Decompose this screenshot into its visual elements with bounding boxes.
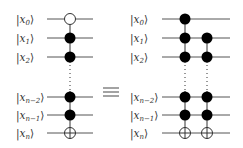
qubit-label: |xn⟩ [16, 127, 34, 141]
right-circuit: |x0⟩|x1⟩|x2⟩|xn−2⟩|xn−1⟩|xn⟩ [130, 13, 230, 141]
filled-control-icon [180, 92, 191, 103]
filled-control-icon [180, 110, 191, 121]
qubit-label: |xn−2⟩ [130, 91, 158, 105]
filled-control-icon [180, 14, 191, 25]
qubit-label: |xn−2⟩ [16, 91, 44, 105]
filled-control-icon [202, 33, 213, 44]
left-circuit: |x0⟩|x1⟩|x2⟩|xn−2⟩|xn−1⟩|xn⟩ [16, 13, 93, 141]
equivalence-symbol [103, 88, 119, 96]
qubit-label: |x1⟩ [16, 32, 34, 46]
qubit-label: |x0⟩ [130, 13, 148, 27]
filled-control-icon [65, 92, 76, 103]
qubit-label: |xn−1⟩ [130, 109, 158, 123]
circuit-canvas: |x0⟩|x1⟩|x2⟩|xn−2⟩|xn−1⟩|xn⟩ |x0⟩|x1⟩|x2… [0, 0, 243, 148]
filled-control-icon [65, 110, 76, 121]
qubit-label: |x1⟩ [130, 32, 148, 46]
filled-control-icon [65, 33, 76, 44]
filled-control-icon [180, 33, 191, 44]
circuit-equivalence-diagram: |x0⟩|x1⟩|x2⟩|xn−2⟩|xn−1⟩|xn⟩ |x0⟩|x1⟩|x2… [0, 0, 243, 148]
filled-control-icon [202, 110, 213, 121]
filled-control-icon [202, 92, 213, 103]
qubit-label: |xn⟩ [130, 127, 148, 141]
filled-control-icon [65, 52, 76, 63]
qubit-label: |x2⟩ [130, 51, 148, 65]
qubit-label: |x2⟩ [16, 51, 34, 65]
qubit-label: |x0⟩ [16, 13, 34, 27]
filled-control-icon [202, 52, 213, 63]
filled-control-icon [180, 52, 191, 63]
qubit-label: |xn−1⟩ [16, 109, 44, 123]
open-control-icon [65, 14, 76, 25]
